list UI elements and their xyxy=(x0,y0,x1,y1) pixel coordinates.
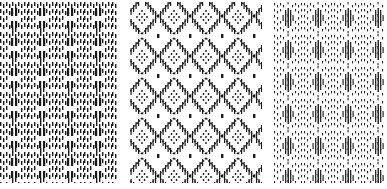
weave-pattern-right xyxy=(273,2,385,183)
weave-pattern-middle xyxy=(130,2,262,183)
weave-panel-middle xyxy=(130,2,262,183)
weave-pattern-left xyxy=(0,2,118,183)
weave-panel-right xyxy=(273,2,385,183)
weave-panel-left xyxy=(0,2,118,183)
